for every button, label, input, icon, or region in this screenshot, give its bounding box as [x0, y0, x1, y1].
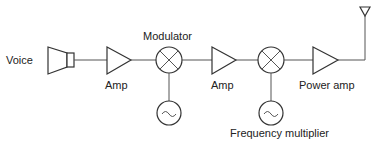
- wire: [338, 16, 365, 60]
- antenna-icon: [360, 7, 370, 16]
- oscillator-icon: [157, 101, 181, 125]
- amplifier-icon: [212, 47, 236, 74]
- modulator-label: Modulator: [143, 30, 192, 42]
- power-amp-label: Power amp: [299, 79, 355, 91]
- oscillator-icon: [259, 101, 283, 125]
- amplifier-icon: [107, 47, 131, 74]
- frequency-multiplier-label: Frequency multiplier: [230, 127, 329, 139]
- voice-label: Voice: [6, 54, 33, 66]
- block-diagram: Voice Amp Modulator Amp Frequency: [0, 0, 388, 145]
- amp2-label: Amp: [211, 79, 234, 91]
- mixer-icon: [258, 47, 284, 73]
- amp1-label: Amp: [105, 79, 128, 91]
- power-amplifier-icon: [313, 47, 338, 74]
- speaker-icon: [48, 47, 74, 74]
- mixer-icon: [156, 47, 182, 73]
